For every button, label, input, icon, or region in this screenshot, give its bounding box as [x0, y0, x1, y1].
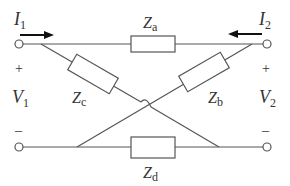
label-v1: V1 [12, 87, 29, 110]
terminal-2-plus [263, 40, 271, 48]
label-minus-1: – [14, 123, 23, 138]
impedance-za-box [131, 36, 175, 52]
terminal-1-minus [15, 143, 23, 151]
label-plus-1: + [15, 61, 23, 76]
label-zb: Zb [208, 89, 223, 109]
zb-diagonal [77, 44, 252, 147]
label-za: Za [143, 14, 158, 34]
lattice-network-diagram: I1 I2 + + – – V1 V2 Za Zc Zb Zd [0, 0, 290, 186]
label-minus-2: – [261, 123, 270, 138]
terminal-1-plus [15, 40, 23, 48]
i1-arrow-icon [44, 31, 54, 39]
impedance-zc-box [68, 54, 119, 94]
terminal-2-minus [263, 143, 271, 151]
label-i1: I1 [13, 9, 26, 32]
label-zd: Zd [143, 164, 158, 184]
i2-arrow-icon [228, 30, 238, 38]
impedance-zd-box [131, 137, 175, 158]
label-plus-2: + [262, 61, 270, 76]
label-v2: V2 [259, 87, 276, 110]
label-zc: Zc [72, 89, 86, 109]
label-i2: I2 [258, 9, 271, 32]
impedance-zb-box [179, 52, 230, 92]
